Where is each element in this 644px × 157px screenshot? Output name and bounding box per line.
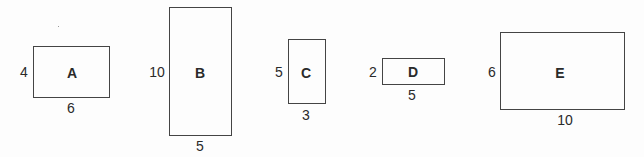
rectangle-d-width: 5 (408, 88, 416, 102)
rectangle-a-height: 4 (20, 65, 28, 79)
rectangle-d-height: 2 (369, 65, 377, 79)
rectangle-b-height: 10 (149, 65, 165, 79)
rectangles-diagram: A 4 6 B 10 5 C 5 3 D 2 5 E 6 10 (0, 0, 644, 157)
rectangle-e-height: 6 (488, 65, 496, 79)
rectangle-b-width: 5 (196, 139, 204, 153)
rectangle-c-name: C (301, 66, 311, 80)
rectangle-c-height: 5 (275, 65, 283, 79)
rectangle-d-name: D (408, 65, 418, 79)
rectangle-b-name: B (195, 66, 205, 80)
stray-dot (58, 26, 59, 27)
rectangle-e-width: 10 (557, 113, 573, 127)
rectangle-e-name: E (555, 66, 564, 80)
rectangle-c-width: 3 (302, 108, 310, 122)
rectangle-a-name: A (67, 66, 77, 80)
rectangle-a-width: 6 (67, 101, 75, 115)
